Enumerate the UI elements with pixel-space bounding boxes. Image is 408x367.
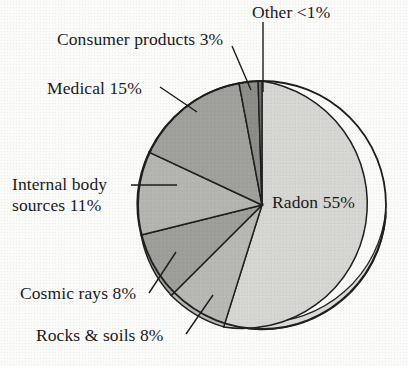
slice-label-internal-body-sources-line1: Internal body <box>12 174 162 195</box>
slice-label-consumer-products: Consumer products 3% <box>57 29 223 50</box>
leader-line-medical <box>160 87 197 112</box>
slice-label-internal-body-sources: Internal body sources 11% <box>12 174 162 216</box>
slice-label-internal-body-sources-line2: sources 11% <box>12 195 162 216</box>
slice-label-cosmic-rays: Cosmic rays 8% <box>20 283 136 304</box>
slice-label-medical: Medical 15% <box>47 78 142 99</box>
pie-chart-figure: Other <1% Consumer products 3% Medical 1… <box>0 0 408 367</box>
slice-label-radon: Radon 55% <box>272 192 355 213</box>
slice-label-other: Other <1% <box>252 2 330 23</box>
slice-label-rocks-and-soils: Rocks & soils 8% <box>36 325 164 346</box>
